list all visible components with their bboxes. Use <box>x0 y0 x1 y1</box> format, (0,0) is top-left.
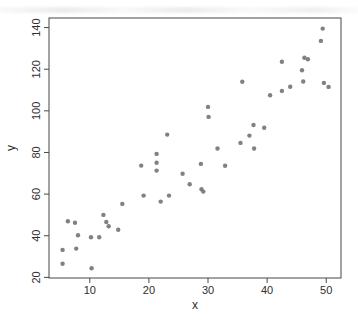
x-tick-label: 40 <box>261 284 273 296</box>
data-point <box>206 105 210 109</box>
data-point <box>301 79 305 83</box>
data-point <box>141 193 145 197</box>
data-point <box>60 248 64 252</box>
data-point <box>104 220 108 224</box>
x-tick-label: 50 <box>320 284 332 296</box>
data-point <box>300 68 304 72</box>
data-point <box>188 182 192 186</box>
data-point <box>101 213 105 217</box>
data-point <box>288 85 292 89</box>
data-point <box>199 162 203 166</box>
data-point <box>165 132 169 136</box>
x-tick-label: 30 <box>202 284 214 296</box>
y-axis-ticks: 20406080100120140 <box>30 18 49 283</box>
y-tick-label: 60 <box>30 188 42 200</box>
data-point <box>154 152 158 156</box>
data-point <box>159 199 163 203</box>
y-axis-label: y <box>4 145 18 151</box>
screenshot-canvas: 1020304050 20406080100120140 x y <box>0 0 358 325</box>
x-axis-ticks: 1020304050 <box>84 278 333 296</box>
data-point <box>247 133 251 137</box>
x-tick-label: 20 <box>143 284 155 296</box>
data-point <box>66 219 70 223</box>
data-point <box>240 80 244 84</box>
data-point <box>154 161 158 165</box>
data-point <box>306 57 310 61</box>
data-point <box>252 146 256 150</box>
data-point <box>120 202 124 206</box>
scatter-plot: 1020304050 20406080100120140 x y <box>0 0 358 325</box>
data-point <box>215 146 219 150</box>
data-point <box>60 262 64 266</box>
data-point <box>167 193 171 197</box>
data-point <box>319 39 323 43</box>
data-point <box>107 224 111 228</box>
data-point <box>322 81 326 85</box>
data-point <box>280 60 284 64</box>
data-point <box>223 164 227 168</box>
data-point <box>74 246 78 250</box>
data-point <box>116 228 120 232</box>
y-tick-label: 140 <box>30 18 42 36</box>
data-point <box>89 235 93 239</box>
x-axis-label: x <box>192 298 198 312</box>
y-tick-label: 80 <box>30 146 42 158</box>
data-point <box>280 89 284 93</box>
data-point <box>73 221 77 225</box>
data-point <box>76 233 80 237</box>
data-point <box>238 141 242 145</box>
data-points <box>60 26 330 270</box>
data-point <box>89 266 93 270</box>
data-point <box>326 85 330 89</box>
data-point <box>97 235 101 239</box>
data-point <box>201 189 205 193</box>
data-point <box>268 93 272 97</box>
y-tick-label: 40 <box>30 230 42 242</box>
plot-box-border <box>49 18 341 278</box>
data-point <box>321 26 325 30</box>
data-point <box>139 163 143 167</box>
y-tick-label: 20 <box>30 271 42 283</box>
y-tick-label: 120 <box>30 60 42 78</box>
data-point <box>206 115 210 119</box>
data-point <box>154 168 158 172</box>
data-point <box>180 172 184 176</box>
data-point <box>262 126 266 130</box>
data-point <box>251 123 255 127</box>
x-tick-label: 10 <box>84 284 96 296</box>
y-tick-label: 100 <box>30 102 42 120</box>
